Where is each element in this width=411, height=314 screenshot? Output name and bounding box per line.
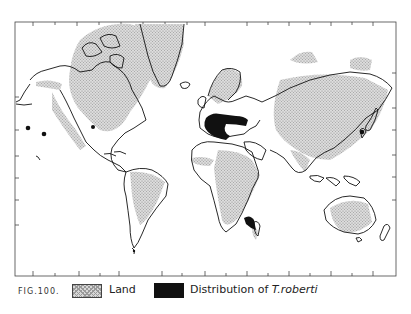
species-name: T.roberti [272, 283, 318, 296]
distribution-point-western-us [42, 132, 47, 137]
land-legend-label: Land [109, 283, 136, 296]
distribution-point-california [26, 126, 31, 131]
distribution-point-japan [360, 130, 365, 135]
world-map [0, 0, 411, 314]
figure-number: FIG.100. [18, 287, 60, 296]
land-swatch [72, 284, 102, 298]
distribution-point-small-island [133, 250, 135, 252]
figure-legend: FIG.100. Land Distribution of T.roberti [0, 282, 411, 304]
distribution-prefix: Distribution of [190, 283, 272, 296]
distribution-legend-label: Distribution of T.roberti [190, 283, 318, 296]
distribution-swatch [154, 283, 184, 298]
distribution-point-pacific-north [91, 125, 95, 129]
